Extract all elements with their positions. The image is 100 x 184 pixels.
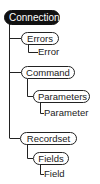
node-parameters: Parameters xyxy=(33,90,90,103)
node-fields: Fields xyxy=(33,152,69,165)
node-connection: Connection xyxy=(4,10,60,25)
node-errors: Errors xyxy=(21,32,59,45)
node-parameter: Parameter xyxy=(44,107,88,119)
node-recordset: Recordset xyxy=(20,132,77,145)
node-command: Command xyxy=(21,66,75,79)
node-error: Error xyxy=(38,46,59,58)
node-field: Field xyxy=(44,168,65,180)
